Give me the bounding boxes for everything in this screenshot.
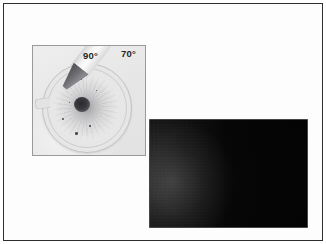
specimen-dish-inset[interactable]: 90° 70° bbox=[32, 45, 146, 156]
dark-field-image[interactable] bbox=[150, 120, 307, 227]
figure-root: 90° 70° bbox=[0, 0, 326, 244]
dark-field-vignette bbox=[150, 120, 307, 227]
angle-label-90: 90° bbox=[83, 51, 98, 61]
specimen-center-spot bbox=[74, 97, 90, 112]
inset-photo-background: 90° 70° bbox=[33, 46, 145, 155]
figure-frame: 90° 70° bbox=[3, 3, 323, 241]
specimen-speck bbox=[75, 132, 78, 135]
specimen-speck bbox=[89, 125, 91, 127]
dish-side-tab bbox=[34, 97, 50, 110]
angle-label-70: 70° bbox=[121, 49, 136, 59]
